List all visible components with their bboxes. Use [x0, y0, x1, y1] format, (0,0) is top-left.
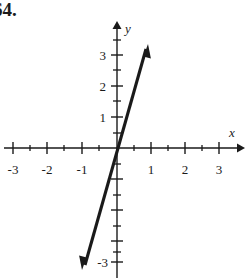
y-axis-label: y — [123, 21, 131, 36]
x-tick-label-pos2: 2 — [182, 162, 189, 177]
x-axis-arrowhead — [237, 144, 245, 153]
x-tick-label-pos1: 1 — [148, 162, 155, 177]
graph-figure: 64. — [0, 0, 246, 280]
line-segment — [85, 49, 146, 265]
x-tick-label-pos3: 3 — [216, 162, 223, 177]
x-axis — [4, 142, 245, 154]
x-axis-label: x — [228, 125, 235, 140]
x-tick-label-neg2: -2 — [42, 162, 53, 177]
y-tick-label-neg3: -3 — [97, 255, 108, 270]
plotted-line — [79, 44, 151, 270]
x-tick-label-neg3: -3 — [8, 162, 19, 177]
y-tick-label-pos2: 2 — [100, 79, 107, 94]
y-tick-label-pos3: 3 — [100, 48, 107, 63]
y-tick-label-pos1: 1 — [100, 110, 107, 125]
y-axis-arrowhead — [113, 21, 122, 29]
x-tick-label-neg1: -1 — [77, 162, 88, 177]
coordinate-plane: y x -3 -2 -1 1 2 3 3 2 1 -3 — [0, 0, 246, 280]
